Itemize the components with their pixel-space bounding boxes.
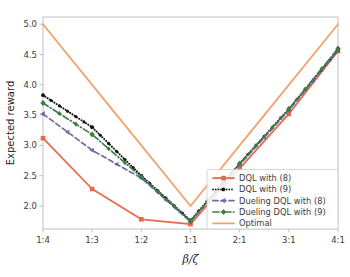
data-marker <box>90 187 95 192</box>
y-tick-label: 3.0 <box>23 140 37 150</box>
data-marker <box>50 99 53 102</box>
data-marker <box>221 176 226 181</box>
data-marker <box>99 134 102 137</box>
y-tick-label: 4.5 <box>23 50 37 60</box>
x-tick-label: 4:1 <box>331 235 345 245</box>
legend-label-2: Dueling DQL with (8) <box>239 196 326 206</box>
x-tick-label: 1:4 <box>36 235 50 245</box>
data-marker <box>222 188 226 192</box>
x-axis-title: β/ζ <box>181 253 199 266</box>
data-marker <box>66 110 69 113</box>
y-tick-label: 3.5 <box>23 110 37 120</box>
data-marker <box>58 104 61 107</box>
y-tick-label: 2.5 <box>23 171 37 181</box>
legend-label-0: DQL with (8) <box>239 173 291 183</box>
legend-label-3: Dueling DQL with (9) <box>239 207 326 217</box>
x-tick-label: 1:1 <box>184 235 198 245</box>
x-tick-label: 2:1 <box>233 235 247 245</box>
legend-label-1: DQL with (9) <box>239 184 291 194</box>
data-marker <box>41 136 46 141</box>
data-marker <box>41 93 45 97</box>
y-tick-label: 5.0 <box>23 19 37 29</box>
data-marker <box>74 115 77 118</box>
data-marker <box>82 120 85 123</box>
y-tick-label: 4.0 <box>23 80 37 90</box>
x-tick-label: 3:1 <box>282 235 296 245</box>
data-marker <box>115 150 118 153</box>
legend-label-4: Optimal <box>239 218 272 228</box>
y-tick-label: 2.0 <box>23 201 37 211</box>
chart-figure: 2.02.53.03.54.04.55.01:41:31:21:12:13:14… <box>0 0 350 277</box>
data-marker <box>107 142 110 145</box>
data-marker <box>139 217 144 222</box>
legend-layer: DQL with (8)DQL with (9)Dueling DQL with… <box>207 170 338 230</box>
y-axis-title: Expected reward <box>5 81 16 165</box>
data-marker <box>114 162 118 167</box>
data-marker <box>90 125 94 129</box>
x-tick-label: 1:3 <box>85 235 99 245</box>
chart-svg: 2.02.53.03.54.04.55.01:41:31:21:12:13:14… <box>0 0 350 277</box>
x-tick-label: 1:2 <box>134 235 148 245</box>
data-marker <box>40 111 45 116</box>
